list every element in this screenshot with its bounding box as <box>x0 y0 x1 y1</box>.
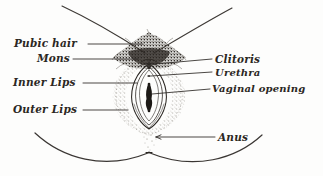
label-anus: Anus <box>218 132 248 143</box>
label-clitoris: Clitoris <box>215 54 260 65</box>
label-urethra: Urethra <box>215 68 260 78</box>
label-vaginal-opening: Vaginal opening <box>212 84 306 94</box>
urethra-marking <box>147 75 150 77</box>
label-outer-lips: Outer Lips <box>13 104 77 115</box>
label-inner-lips: Inner Lips <box>13 77 76 88</box>
anatomy-diagram-figure: Pubic hair Mons Inner Lips Outer Lips Cl… <box>0 0 323 176</box>
label-mons: Mons <box>37 53 70 64</box>
label-pubic-hair: Pubic hair <box>14 38 77 49</box>
